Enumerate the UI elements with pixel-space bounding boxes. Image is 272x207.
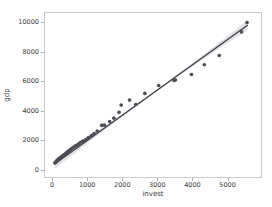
scatter-point bbox=[95, 129, 99, 133]
scatter-point bbox=[143, 92, 147, 96]
y-tick-label: 0 bbox=[10, 166, 39, 174]
x-tick-label: 0 bbox=[50, 181, 54, 189]
y-tick-mark bbox=[41, 140, 44, 141]
y-tick-label: 2000 bbox=[10, 136, 39, 144]
scatter-point bbox=[217, 54, 221, 58]
scatter-point bbox=[202, 63, 206, 67]
scatter-point bbox=[190, 73, 194, 77]
x-tick-label: 1000 bbox=[79, 181, 96, 189]
y-axis-label: gdp bbox=[3, 88, 11, 101]
scatter-point bbox=[240, 30, 244, 34]
plot-area bbox=[44, 12, 262, 178]
regression-line-group bbox=[55, 25, 248, 164]
y-tick-mark bbox=[41, 22, 44, 23]
scatter-point bbox=[108, 120, 112, 124]
y-tick-label: 4000 bbox=[10, 107, 39, 115]
scatter-point bbox=[117, 111, 121, 115]
scatter-point bbox=[245, 21, 249, 25]
x-tick-label: 3000 bbox=[149, 181, 166, 189]
y-tick-mark bbox=[41, 52, 44, 53]
scatter-point bbox=[92, 132, 96, 136]
scatter-point bbox=[103, 123, 107, 127]
y-tick-mark bbox=[41, 81, 44, 82]
scatter-point bbox=[119, 103, 123, 107]
plot-svg bbox=[45, 13, 261, 177]
scatter-point bbox=[128, 98, 132, 102]
y-tick-label: 8000 bbox=[10, 48, 39, 56]
y-tick-mark bbox=[41, 111, 44, 112]
scatter-point bbox=[112, 116, 116, 120]
regression-line bbox=[55, 25, 248, 164]
scatter-point bbox=[134, 103, 138, 107]
scatter-point bbox=[157, 84, 161, 88]
y-tick-label: 10000 bbox=[10, 18, 39, 26]
scatter-point bbox=[174, 78, 178, 82]
x-tick-label: 2000 bbox=[114, 181, 131, 189]
x-tick-label: 5000 bbox=[219, 181, 236, 189]
x-tick-label: 4000 bbox=[184, 181, 201, 189]
figure-canvas: 0200040006000800010000010002000300040005… bbox=[0, 0, 272, 207]
x-axis-label: invest bbox=[142, 190, 163, 198]
y-tick-mark bbox=[41, 170, 44, 171]
y-tick-label: 6000 bbox=[10, 77, 39, 85]
